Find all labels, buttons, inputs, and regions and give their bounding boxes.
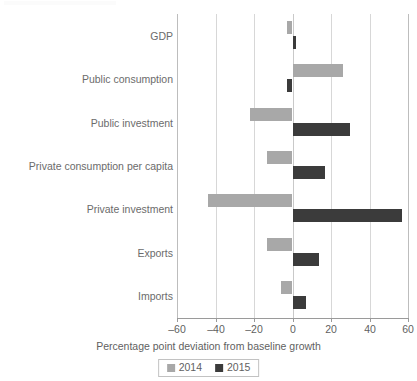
plot-area [177,14,408,318]
x-tick-mark [254,318,255,322]
bar-2015-imports [293,296,306,309]
legend-item-2015[interactable]: 2015 [215,362,250,373]
bar-2014-imports [281,281,293,294]
category-label: GDP [5,30,173,42]
x-tick-mark [177,318,178,322]
x-tick-mark [293,318,294,322]
bar-2015-public-investment [293,123,351,136]
category-label: Exports [5,247,173,259]
x-tick-label: 60 [388,323,417,335]
scan-artifact [4,1,116,5]
bar-2014-gdp [287,21,293,34]
x-tick-label: –40 [196,323,236,335]
bar-2014-private-consumption-per-capita [267,151,292,164]
category-axis-labels: GDPPublic consumptionPublic investmentPr… [3,14,173,318]
legend-item-2014[interactable]: 2014 [167,362,202,373]
category-label: Private consumption per capita [5,160,173,172]
legend-swatch-2015 [215,364,223,372]
legend-swatch-2014 [167,364,175,372]
bar-2015-private-consumption-per-capita [293,166,326,179]
x-tick-label: –20 [234,323,274,335]
bar-group-row [177,14,408,57]
legend-label-2014: 2014 [179,362,202,373]
bar-2014-public-investment [250,108,292,121]
category-label: Imports [5,290,173,302]
x-tick-label: –60 [157,323,197,335]
bar-chart-figure: GDPPublic consumptionPublic investmentPr… [0,0,417,381]
category-label: Public consumption [5,73,173,85]
x-tick-mark [331,318,332,322]
x-tick-label: 20 [311,323,351,335]
x-tick-mark [370,318,371,322]
bar-2014-private-investment [208,194,293,207]
bar-2015-public-consumption [287,79,293,92]
x-tick-label: 40 [350,323,390,335]
x-tick-mark [216,318,217,322]
bar-2015-exports [293,253,320,266]
x-tick-label: 0 [273,323,313,335]
bar-group-row [177,188,408,231]
bars-group [177,14,408,318]
bar-2014-public-consumption [293,64,343,77]
x-tick-mark [408,318,409,322]
x-axis-title: Percentage point deviation from baseline… [0,340,417,352]
bar-2015-private-investment [293,209,403,222]
bar-group-row [177,101,408,144]
category-label: Private investment [5,203,173,215]
bar-group-row [177,275,408,318]
gridline [408,14,409,318]
bar-group-row [177,144,408,187]
bar-2015-gdp [293,36,297,49]
bar-2014-exports [267,238,292,251]
legend-label-2015: 2015 [227,362,250,373]
bar-group-row [177,57,408,100]
category-label: Public investment [5,117,173,129]
bar-group-row [177,231,408,274]
chart-legend[interactable]: 2014 2015 [158,359,260,377]
